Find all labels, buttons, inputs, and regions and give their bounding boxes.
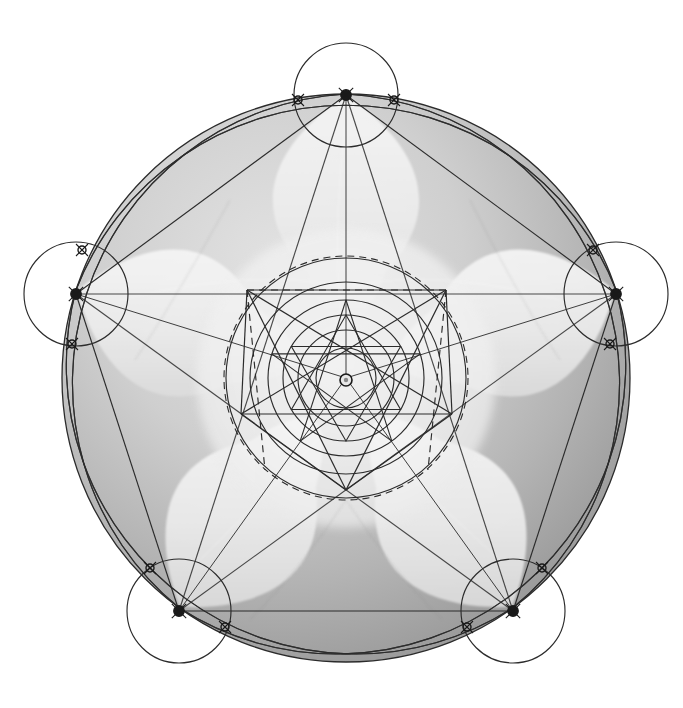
node-marker — [69, 287, 83, 301]
node-marker — [219, 621, 231, 633]
node-marker — [388, 94, 400, 106]
geometry-svg — [0, 0, 683, 708]
node-marker — [587, 244, 599, 256]
node-marker — [536, 562, 548, 574]
node-marker — [66, 338, 78, 350]
node-marker — [604, 338, 616, 350]
node-marker — [609, 287, 623, 301]
node-marker — [339, 88, 353, 102]
node-marker — [461, 621, 473, 633]
node-marker — [76, 244, 88, 256]
node-marker — [506, 604, 520, 618]
center-dot — [340, 374, 352, 386]
figure-canvas — [0, 0, 683, 708]
node-marker — [172, 604, 186, 618]
node-marker — [144, 562, 156, 574]
node-marker — [292, 94, 304, 106]
